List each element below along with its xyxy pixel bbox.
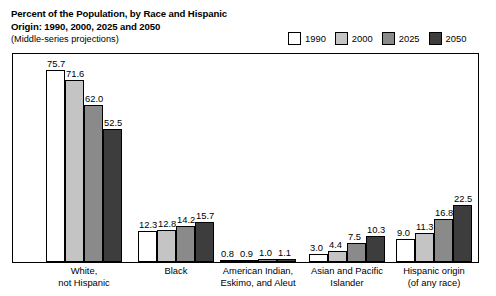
bar-2050 [453,205,472,262]
category-label-line: (of any race) [370,277,496,289]
bar-2025 [176,226,195,262]
bar-1990 [309,254,328,262]
chart-subtitle: (Middle-series projections) [11,33,311,46]
bar-column: 3.0 [309,53,328,262]
bar-value-label: 4.4 [329,240,342,250]
legend-label-2025: 2025 [399,34,420,44]
category-axis-labels: White,not HispanicBlackAmerican Indian,E… [12,265,479,296]
legend-item-2025: 2025 [382,32,420,45]
bar-1990 [396,239,415,262]
bar-value-label: 1.0 [259,248,272,258]
chart-figure: Percent of the Population, by Race and H… [0,0,496,296]
bar-2050 [103,129,122,262]
bar-group: 3.04.47.510.3 [309,53,385,262]
bar-group: 12.312.814.215.7 [138,53,214,262]
page-title-line-2: Origin: 1990, 2000, 2025 and 2050 [11,21,311,34]
bar-2025 [434,219,453,262]
legend-item-2000: 2000 [335,32,373,45]
legend-swatch-2025 [382,32,395,45]
bar-column: 9.0 [396,53,415,262]
bar-value-label: 71.6 [66,69,84,79]
bar-value-label: 15.7 [196,211,214,221]
bar-column: 52.5 [103,53,122,262]
bar-value-label: 1.1 [278,248,291,258]
bar-column: 10.3 [366,53,385,262]
chart-title-block: Percent of the Population, by Race and H… [11,8,311,46]
bar-column: 12.3 [138,53,157,262]
bar-2050 [366,236,385,262]
legend-label-2000: 2000 [352,34,373,44]
bar-column: 75.7 [46,53,65,262]
bar-column: 1.1 [277,53,296,262]
bar-column: 0.8 [220,53,239,262]
legend-swatch-1990 [288,32,301,45]
bar-value-label: 14.2 [177,215,195,225]
bar-value-label: 11.3 [416,222,434,232]
bar-value-label: 16.8 [435,208,453,218]
bar-2025 [84,105,103,262]
bar-2000 [157,230,176,263]
bar-value-label: 22.5 [454,194,472,204]
bar-column: 15.7 [195,53,214,262]
bar-2000 [65,80,84,262]
bar-column: 22.5 [453,53,472,262]
bar-column: 11.3 [415,53,434,262]
bar-value-label: 75.7 [47,59,65,69]
bar-value-label: 7.5 [348,232,361,242]
bar-column: 7.5 [347,53,366,262]
bar-value-label: 9.0 [397,228,410,238]
bar-column: 4.4 [328,53,347,262]
bar-2050 [195,222,214,262]
legend-item-2050: 2050 [429,32,467,45]
bar-value-label: 3.0 [310,243,323,253]
bar-value-label: 12.3 [139,220,157,230]
page-title-line-1: Percent of the Population, by Race and H… [11,8,311,21]
legend-item-1990: 1990 [288,32,326,45]
bar-column: 0.9 [239,53,258,262]
bar-column: 12.8 [157,53,176,262]
bar-value-label: 62.0 [85,94,103,104]
legend-label-1990: 1990 [305,34,326,44]
category-label: Hispanic origin(of any race) [370,265,496,288]
bar-2000 [239,260,258,262]
bar-value-label: 10.3 [367,225,385,235]
category-label-line: Hispanic origin [370,265,496,277]
legend-swatch-2000 [335,32,348,45]
bar-group: 75.771.662.052.5 [46,53,122,262]
bar-2000 [415,233,434,262]
bar-2050 [277,259,296,262]
chart-legend: 1990 2000 2025 2050 [288,32,466,45]
bar-value-label: 52.5 [104,118,122,128]
category-label-line: not Hispanic [20,277,148,289]
bar-1990 [46,70,65,262]
bar-group: 0.80.91.01.1 [220,53,296,262]
bar-value-label: 0.8 [221,249,234,259]
bar-value-label: 12.8 [158,219,176,229]
bar-column: 1.0 [258,53,277,262]
bar-column: 62.0 [84,53,103,262]
bar-1990 [220,260,239,262]
bar-group: 9.011.316.822.5 [396,53,472,262]
bar-value-label: 0.9 [240,249,253,259]
bar-column: 16.8 [434,53,453,262]
bar-1990 [138,231,157,262]
bars-layer: 75.771.662.052.512.312.814.215.70.80.91.… [12,53,479,263]
bar-column: 71.6 [65,53,84,262]
legend-label-2050: 2050 [446,34,467,44]
legend-swatch-2050 [429,32,442,45]
bar-2000 [328,251,347,262]
bar-2025 [347,243,366,262]
bar-column: 14.2 [176,53,195,262]
bar-2025 [258,259,277,262]
